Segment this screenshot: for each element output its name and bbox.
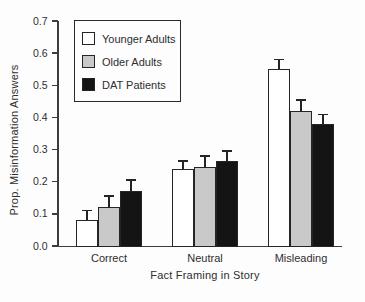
- error-bar-cap: [126, 179, 136, 181]
- legend-label: Younger Adults: [102, 33, 176, 45]
- legend-entry: Younger Adults: [82, 27, 180, 50]
- error-bar-line: [130, 180, 131, 191]
- error-bar-cap: [178, 160, 188, 162]
- error-bar-cap: [104, 195, 114, 197]
- error-bar-cap: [222, 150, 232, 152]
- bar-dat-patients-misleading: [312, 124, 334, 247]
- bar-chart-figure: Prop. Misinformation Answers Fact Framin…: [0, 0, 365, 302]
- error-bar-line: [182, 161, 183, 169]
- error-bar-line: [322, 114, 323, 124]
- x-category-label: Neutral: [160, 252, 250, 264]
- bar-younger-adults-neutral: [172, 169, 194, 247]
- error-bar-cap: [318, 114, 328, 116]
- error-bar-cap: [200, 155, 210, 157]
- legend: Younger AdultsOlder AdultsDAT Patients: [74, 20, 181, 102]
- legend-entry: Older Adults: [82, 50, 180, 73]
- bar-older-adults-correct: [98, 207, 120, 247]
- bar-younger-adults-correct: [76, 220, 98, 247]
- y-tick-mark: [52, 85, 58, 86]
- error-bar-line: [108, 196, 109, 207]
- error-bar-cap: [82, 210, 92, 212]
- y-tick-mark: [52, 117, 58, 118]
- y-tick-label: 0.0: [22, 240, 48, 252]
- error-bar-cap: [296, 99, 306, 101]
- bar-younger-adults-misleading: [268, 69, 290, 247]
- error-bar-line: [204, 156, 205, 167]
- error-bar-line: [86, 211, 87, 221]
- legend-label: Older Adults: [102, 56, 162, 68]
- bar-dat-patients-correct: [120, 191, 142, 247]
- y-tick-label: 0.6: [22, 47, 48, 59]
- x-category-label: Misleading: [256, 252, 346, 264]
- error-bar-line: [226, 151, 227, 161]
- legend-swatch-icon: [82, 55, 95, 68]
- y-tick-label: 0.2: [22, 175, 48, 187]
- x-category-label: Correct: [64, 252, 154, 264]
- y-tick-mark: [52, 149, 58, 150]
- y-tick-label: 0.7: [22, 15, 48, 27]
- y-tick-mark: [52, 245, 58, 246]
- y-tick-label: 0.5: [22, 79, 48, 91]
- bar-older-adults-neutral: [194, 167, 216, 247]
- y-tick-label: 0.4: [22, 111, 48, 123]
- x-axis-title: Fact Framing in Story: [60, 269, 350, 281]
- legend-swatch-icon: [82, 78, 95, 91]
- legend-swatch-icon: [82, 32, 95, 45]
- bar-older-adults-misleading: [290, 111, 312, 247]
- y-axis-title: Prop. Misinformation Answers: [8, 64, 20, 215]
- error-bar-line: [300, 100, 301, 111]
- bar-dat-patients-neutral: [216, 161, 238, 247]
- y-tick-label: 0.3: [22, 143, 48, 155]
- error-bar-line: [278, 60, 279, 70]
- y-tick-mark: [52, 213, 58, 214]
- error-bar-cap: [274, 59, 284, 61]
- legend-entry: DAT Patients: [82, 73, 180, 96]
- legend-label: DAT Patients: [102, 79, 166, 91]
- y-tick-mark: [52, 20, 58, 21]
- y-tick-mark: [52, 52, 58, 53]
- y-tick-label: 0.1: [22, 207, 48, 219]
- y-tick-mark: [52, 181, 58, 182]
